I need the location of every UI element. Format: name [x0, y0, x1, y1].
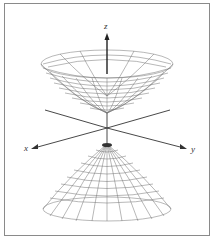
lower-sheet [43, 144, 171, 221]
hyperboloid-diagram [0, 0, 215, 240]
x-arrow-icon [31, 144, 38, 149]
y-axis-back [45, 110, 107, 128]
y-axis-label: y [191, 145, 195, 154]
y-arrow-icon [180, 144, 187, 149]
x-axis-back [107, 110, 170, 128]
z-arrow-icon [105, 33, 110, 40]
x-axis-label: x [24, 144, 28, 153]
axes [34, 110, 184, 148]
z-axis-label: z [104, 22, 108, 31]
y-axis-front [107, 128, 184, 148]
x-axis-front [34, 128, 107, 148]
lower-apex [102, 143, 112, 147]
